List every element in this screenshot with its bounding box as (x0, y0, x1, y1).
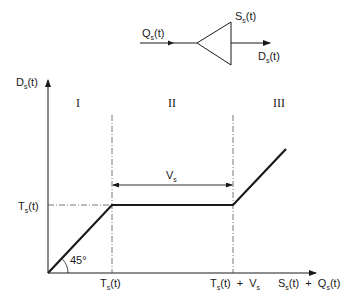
y-tick-ts-label: Ts(t) (18, 200, 39, 214)
x-tick-ts-label: Ts(t) (100, 277, 121, 291)
region-label-3: III (273, 96, 285, 110)
reservoir-triangle (197, 22, 231, 65)
angle-arc (63, 259, 68, 273)
x-axis-label: Ss(t) + Qs(t) (278, 277, 340, 291)
inflow-arrowhead-icon (168, 41, 174, 46)
block-diagram: Qs(t) Ss(t) Ds(t) (140, 10, 280, 65)
y-axis-label: Ds(t) (16, 76, 38, 90)
x-tick-ts-plus-vs-label: Ts(t) + Vs (210, 277, 261, 291)
inflow-label: Qs(t) (142, 27, 164, 41)
outflow-label: Ds(t) (258, 50, 280, 64)
storage-label: Ss(t) (235, 10, 256, 24)
angle-label: 45° (70, 254, 87, 266)
guide-lines (48, 115, 233, 273)
region-label-1: I (76, 96, 80, 110)
vs-span-label: Vs (166, 169, 177, 183)
reservoir-diagram: Qs(t) Ss(t) Ds(t) Ds(t) Ss(t) + Qs(t) I … (0, 0, 360, 304)
axes: Ds(t) Ss(t) + Qs(t) (16, 76, 340, 291)
region-label-2: II (168, 96, 176, 110)
